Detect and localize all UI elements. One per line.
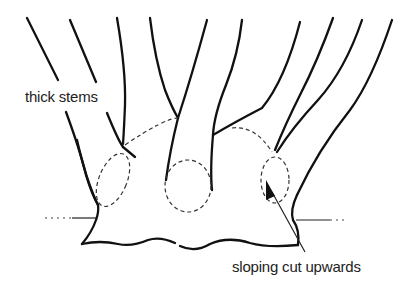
- diagram-canvas: thick stems sloping cut upwards: [0, 0, 420, 291]
- sloping-cut-label: sloping cut upwards: [232, 258, 361, 275]
- soil-line: [45, 218, 348, 220]
- stems: [27, 18, 392, 245]
- arrowhead-icon: [266, 180, 275, 200]
- thick-stems-label: thick stems: [25, 88, 98, 105]
- plant-crown-illustration: [0, 0, 420, 291]
- crown-base: [82, 239, 298, 250]
- dashed-cut-ovals: [90, 118, 289, 212]
